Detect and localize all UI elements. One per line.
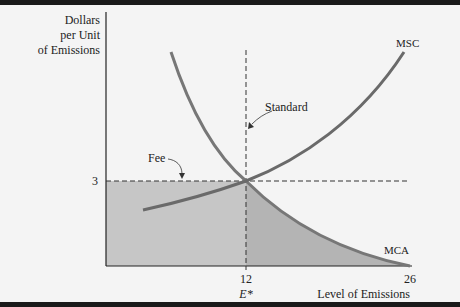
- fee-arrow: [168, 159, 182, 174]
- e-star-label: E*: [238, 287, 252, 301]
- y-axis-label-3: of Emissions: [38, 43, 101, 57]
- x-axis-label: Level of Emissions: [317, 287, 410, 301]
- mca-label: MCA: [384, 244, 409, 256]
- fee-label: Fee: [148, 151, 165, 165]
- fee-shaded-rect: [106, 181, 246, 266]
- y-tick-3: 3: [92, 174, 98, 188]
- x-tick-26: 26: [404, 272, 416, 286]
- standard-label: Standard: [265, 100, 308, 114]
- msc-label: MSC: [396, 37, 419, 49]
- bottom-border: [0, 302, 460, 307]
- fee-arrowhead: [179, 173, 185, 179]
- y-axis-label-1: Dollars: [65, 13, 101, 27]
- x-tick-12: 12: [240, 272, 252, 286]
- chart-canvas: Dollars per Unit of Emissions 3 12 26 E*…: [0, 0, 460, 307]
- y-axis-label-2: per Unit: [60, 28, 100, 42]
